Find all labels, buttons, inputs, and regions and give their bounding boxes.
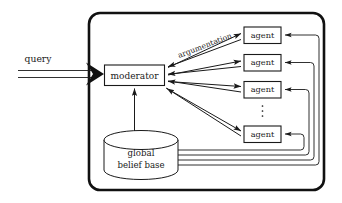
agent-node-3: agent bbox=[244, 82, 281, 99]
agent-label-3: agent bbox=[251, 84, 275, 94]
agent-node-2: agent bbox=[244, 55, 281, 72]
belief-base-label-line2: belief base bbox=[117, 160, 164, 170]
query-label: query bbox=[25, 53, 53, 64]
agent-label-1: agent bbox=[251, 30, 275, 40]
moderator-node: moderator bbox=[105, 65, 165, 86]
global-belief-base-node: global belief base bbox=[104, 131, 178, 180]
agent-label-2: agent bbox=[251, 57, 275, 67]
diagram-canvas: query moderator global belief base agent… bbox=[0, 0, 342, 203]
agent-node-1: agent bbox=[244, 27, 281, 44]
agent-node-4: agent bbox=[244, 126, 281, 143]
belief-base-label-line1: global bbox=[128, 148, 155, 158]
architecture-diagram: query moderator global belief base agent… bbox=[0, 0, 342, 203]
moderator-label: moderator bbox=[110, 71, 159, 81]
agent-label-4: agent bbox=[251, 129, 275, 139]
